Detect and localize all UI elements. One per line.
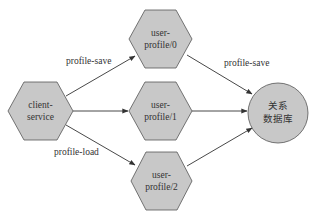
node-label-line2: profile/1 (144, 112, 177, 122)
edge-label-client-up2: profile-load (54, 147, 99, 157)
node-label-line1: user- (152, 170, 171, 180)
node-label-line2: profile/2 (145, 182, 178, 192)
hexagon-shape (129, 82, 192, 140)
circle-shape (248, 83, 308, 143)
edge-label-client-up0: profile-save (66, 56, 111, 66)
hexagon-shape (129, 10, 192, 68)
node-label-line2: 数据库 (263, 113, 293, 124)
node-label-line1: client- (28, 100, 52, 110)
edge-client-to-up2 (66, 125, 135, 165)
node-label-line1: 关系 (268, 100, 288, 111)
node-label-line2: service (27, 112, 54, 122)
node-label-line1: user- (151, 28, 170, 38)
hexagon-shape (8, 82, 73, 140)
node-client-service: client- service (8, 82, 73, 140)
diagram-canvas: profile-save profile-load profile-save c… (0, 0, 309, 220)
node-user-profile-1: user- profile/1 (129, 82, 192, 140)
node-label-line1: user- (151, 100, 170, 110)
node-label-line2: profile/0 (144, 40, 177, 50)
hexagon-shape (131, 152, 192, 210)
edge-label-up0-db: profile-save (224, 58, 269, 68)
edge-up2-to-db (187, 128, 252, 166)
node-user-profile-0: user- profile/0 (129, 10, 192, 68)
node-user-profile-2: user- profile/2 (131, 152, 192, 210)
node-relational-database: 关系 数据库 (248, 83, 308, 143)
